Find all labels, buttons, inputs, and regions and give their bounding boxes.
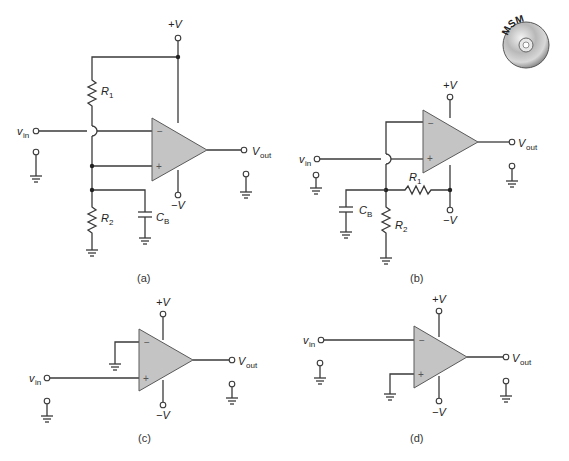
circuit-b: +V v in − + R 1	[299, 79, 538, 284]
svg-text:−: −	[144, 337, 150, 348]
junction-dot	[176, 55, 180, 59]
vout-terminal: V out	[478, 137, 538, 152]
caption-d: (d)	[410, 432, 423, 444]
vout-terminal: V out	[207, 145, 272, 160]
feedback-wire	[386, 122, 423, 154]
cb-wire	[92, 190, 145, 212]
circuit-a: +V R 1 v in	[17, 18, 272, 284]
svg-text:+V: +V	[432, 293, 447, 305]
svg-text:+: +	[143, 373, 149, 384]
svg-text:R: R	[101, 85, 109, 97]
svg-text:out: out	[526, 143, 538, 152]
svg-text:out: out	[260, 151, 272, 160]
op-amp: − +	[152, 118, 207, 192]
svg-text:R: R	[409, 171, 417, 183]
caption-c: (c)	[138, 432, 151, 444]
svg-text:−V: −V	[443, 214, 458, 226]
vin-terminal: v in	[303, 334, 414, 349]
svg-text:out: out	[520, 358, 532, 367]
resistor-r2: R 2	[88, 203, 114, 250]
cd-disc-icon: MSM	[499, 13, 549, 68]
caption-b: (b)	[410, 272, 423, 284]
input-ground-reference	[314, 360, 326, 384]
positive-supply-terminal: +V	[432, 293, 447, 337]
vin-terminal: v in	[17, 125, 152, 140]
vout-terminal: V out	[467, 352, 532, 367]
positive-supply-terminal: +V	[168, 18, 183, 123]
junction-dot	[90, 164, 94, 168]
capacitor-cb: C B	[339, 204, 372, 232]
svg-text:in: in	[309, 340, 315, 349]
svg-text:−V: −V	[156, 409, 171, 421]
output-ground-reference	[226, 381, 238, 404]
svg-text:−V: −V	[432, 406, 447, 418]
svg-text:R: R	[395, 219, 403, 231]
svg-text:2: 2	[109, 218, 114, 227]
svg-text:C: C	[156, 211, 164, 223]
circuit-c: +V v in − + −V V ou	[29, 296, 258, 444]
ground-icon	[86, 250, 98, 256]
resistor-r1: R 1	[386, 171, 450, 194]
ground-icon	[380, 258, 392, 264]
negative-supply-terminal: −V	[156, 402, 171, 421]
wire-crossover	[386, 154, 391, 164]
svg-text:B: B	[367, 210, 372, 219]
svg-text:−: −	[157, 126, 163, 137]
input-ground-reference	[310, 172, 322, 194]
circuit-d: +V v in − + −V V ou	[303, 293, 532, 444]
output-ground-reference	[506, 163, 518, 187]
svg-text:R: R	[101, 212, 109, 224]
svg-text:+V: +V	[168, 18, 183, 30]
svg-text:+: +	[427, 153, 433, 164]
negative-supply-terminal: −V	[171, 192, 186, 211]
op-amp: − +	[414, 326, 467, 398]
svg-text:+V: +V	[443, 79, 458, 91]
negative-supply-terminal: −V	[443, 207, 458, 226]
ground-icon	[384, 394, 396, 400]
op-amp: − +	[423, 110, 478, 207]
ground-icon	[139, 238, 151, 244]
input-ground-reference	[30, 149, 42, 182]
svg-text:B: B	[164, 217, 169, 226]
svg-text:1: 1	[417, 177, 422, 186]
svg-text:+: +	[418, 369, 424, 380]
input-ground-reference	[41, 398, 53, 422]
svg-text:C: C	[359, 204, 367, 216]
positive-supply-terminal: +V	[156, 296, 171, 340]
svg-text:−V: −V	[171, 199, 186, 211]
junction-dot	[90, 188, 94, 192]
junction-dot	[448, 188, 452, 192]
ground-icon	[109, 364, 121, 370]
vin-terminal: v in	[29, 372, 139, 387]
wire-crossover	[92, 126, 97, 136]
resistor-r1: R 1	[88, 76, 114, 126]
top-wire	[92, 57, 178, 76]
vout-terminal: V out	[193, 355, 258, 370]
svg-text:in: in	[35, 378, 41, 387]
svg-text:−: −	[419, 335, 425, 346]
ground-icon	[340, 232, 352, 238]
negative-supply-terminal: −V	[432, 398, 447, 418]
svg-text:+: +	[156, 161, 162, 172]
capacitor-cb: C B	[138, 211, 169, 238]
caption-a: (a)	[137, 272, 150, 284]
output-ground-reference	[240, 171, 252, 198]
svg-text:2: 2	[403, 225, 408, 234]
circuit-figure: +V R 1 v in	[0, 0, 569, 461]
svg-text:out: out	[246, 361, 258, 370]
vin-terminal: v in	[299, 153, 423, 168]
output-ground-reference	[500, 378, 512, 402]
svg-text:1: 1	[109, 91, 114, 100]
inverting-ground-wire	[115, 342, 139, 364]
noninverting-ground-wire	[390, 374, 414, 394]
op-amp: − +	[139, 329, 193, 402]
svg-text:in: in	[23, 131, 29, 140]
positive-supply-terminal: +V	[443, 79, 458, 118]
resistor-r2: R 2	[382, 200, 408, 258]
svg-text:in: in	[305, 159, 311, 168]
svg-text:−: −	[428, 118, 434, 129]
svg-text:+V: +V	[156, 296, 171, 308]
